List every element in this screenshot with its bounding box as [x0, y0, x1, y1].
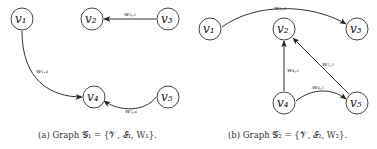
- edge-label: w₄,₂: [287, 66, 299, 73]
- node-v3: v₃: [157, 8, 179, 30]
- svg-text:v₄: v₄: [277, 96, 289, 110]
- node-v2: v₂: [273, 18, 295, 40]
- svg-text:v₄: v₄: [87, 90, 99, 104]
- svg-text:v₁: v₁: [15, 12, 27, 26]
- graph-1: w₃,₂ w₁,₄ w₅,₄ v₁ v₂ v₃ v₄ v₅: [11, 8, 179, 114]
- edge-label: w₅,₄: [125, 107, 137, 114]
- svg-text:v₃: v₃: [161, 12, 173, 26]
- node-v1: v₁: [199, 18, 221, 40]
- node-v2: v₂: [81, 8, 103, 30]
- graph-2: w₁,₃ w₄,₂ w₅,₂ w₄,₅ v₁ v₂ v₃ v₄ v₅: [199, 4, 368, 114]
- caption-graph-1: (a) Graph 𝒢₁ = {𝒱, ℰ₁, W₁}.: [38, 130, 157, 141]
- edge-v1-v4: w₁,₄: [22, 31, 82, 97]
- svg-text:v₅: v₅: [350, 96, 362, 110]
- node-v5: v₅: [157, 86, 179, 108]
- svg-text:v₅: v₅: [161, 90, 173, 104]
- svg-text:v₁: v₁: [203, 22, 215, 36]
- node-v4: v₄: [83, 86, 105, 108]
- edge-v5-v4: w₅,₄: [104, 97, 156, 114]
- edge-label: w₁,₄: [36, 67, 48, 74]
- node-v1: v₁: [11, 8, 33, 30]
- edge-label: w₄,₅: [312, 83, 324, 90]
- node-v4: v₄: [273, 92, 295, 114]
- edge-v4-v5: w₄,₅: [296, 83, 346, 101]
- edge-label: w₅,₂: [322, 60, 334, 67]
- svg-text:v₂: v₂: [277, 22, 289, 36]
- node-v3: v₃: [346, 18, 368, 40]
- edge-v3-v2: w₃,₂: [104, 10, 156, 19]
- edge-v4-v2: w₄,₂: [284, 41, 299, 91]
- svg-text:v₂: v₂: [85, 12, 97, 26]
- graph-figure: w₃,₂ w₁,₄ w₅,₄ v₁ v₂ v₃ v₄ v₅ w₁,₃ w₄,₂ …: [0, 0, 377, 149]
- node-v5: v₅: [346, 92, 368, 114]
- caption-graph-2: (b) Graph 𝒢₂ = {𝒱, ℰ₂, W₂}.: [228, 130, 347, 141]
- svg-text:v₃: v₃: [350, 22, 362, 36]
- edge-label: w₃,₂: [124, 10, 136, 17]
- edge-label: w₁,₃: [274, 4, 286, 11]
